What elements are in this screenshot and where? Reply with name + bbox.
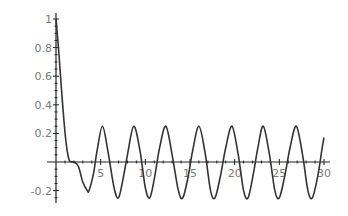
y-tick-label: 0.2 [35,127,53,140]
x-tick-label: 5 [97,167,104,180]
x-tick-label: 10 [138,167,152,180]
y-tick-label: 0.4 [35,99,53,112]
line-chart: 51015202530-0.20.20.40.60.81 [0,0,348,216]
y-tick-label: 0.8 [35,42,53,55]
y-tick-label: 1 [45,13,52,26]
y-tick-label: 0.6 [35,70,53,83]
y-tick-label: -0.2 [31,185,52,198]
